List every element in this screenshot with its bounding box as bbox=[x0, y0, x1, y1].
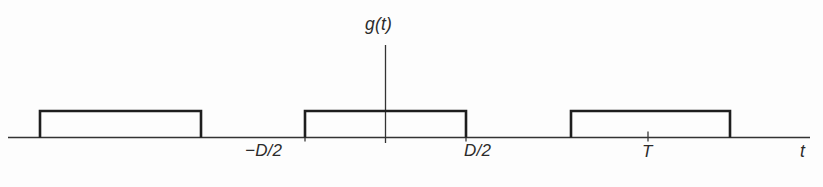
tick-label-neg-half-d: −D/2 bbox=[245, 142, 282, 159]
tick-label-period: T bbox=[642, 143, 653, 160]
pulse-right bbox=[571, 111, 730, 138]
horizontal-axis-label: t bbox=[800, 143, 805, 161]
tick-label-half-d: D/2 bbox=[464, 142, 491, 159]
figure-canvas bbox=[0, 0, 823, 187]
vertical-axis-label: g(t) bbox=[365, 16, 392, 34]
pulse-left bbox=[40, 111, 201, 138]
pulse-train-figure: g(t) −D/2 D/2 T t bbox=[0, 0, 823, 187]
